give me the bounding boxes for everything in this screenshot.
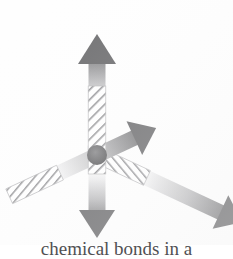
- figure-caption: chemical bonds in a: [0, 239, 233, 259]
